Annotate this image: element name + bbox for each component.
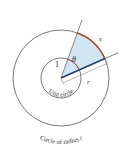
label-outer-circle: Circle of radius r xyxy=(39,133,84,145)
label-theta: θ xyxy=(72,55,76,64)
lower-ray-ext xyxy=(105,53,118,59)
diagram-canvas: s θ 1 r Unit circle Circle of radius r xyxy=(0,0,124,149)
label-s: s xyxy=(99,35,102,43)
label-1: 1 xyxy=(55,60,59,69)
r-tick-left xyxy=(61,79,64,85)
label-unit-circle: Unit circle xyxy=(48,87,75,98)
label-r: r xyxy=(87,78,90,86)
unit-circle-diagram: s θ 1 r Unit circle Circle of radius r xyxy=(0,0,124,149)
